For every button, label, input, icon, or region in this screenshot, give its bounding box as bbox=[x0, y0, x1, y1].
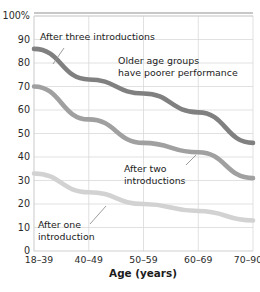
x-tick-label: 60–69 bbox=[184, 254, 212, 265]
y-tick-label: 100% bbox=[3, 10, 30, 21]
annotation-line: have poorer performance bbox=[118, 67, 238, 78]
y-tick-label: 70 bbox=[18, 81, 30, 92]
line-chart-svg: 0102030405060708090100% 18–3940–4950–596… bbox=[0, 0, 260, 292]
annotation-line: introduction bbox=[38, 231, 95, 242]
annotation-line: After one bbox=[38, 219, 81, 230]
annotation-after-two-introductions: After twointroductions bbox=[124, 163, 186, 186]
x-tick-label: 40–49 bbox=[75, 254, 103, 265]
x-tick-label: 50–59 bbox=[129, 254, 157, 265]
y-tick-label: 20 bbox=[18, 198, 30, 209]
y-tick-label: 90 bbox=[18, 34, 30, 45]
annotation-line: After three introductions bbox=[40, 31, 155, 42]
x-axis-title: Age (years) bbox=[109, 267, 177, 279]
y-tick-label: 80 bbox=[18, 57, 30, 68]
annotation-after-one-introduction: After oneintroduction bbox=[38, 219, 95, 242]
x-tick-label: 18–39 bbox=[25, 254, 53, 265]
chart-figure: 0102030405060708090100% 18–3940–4950–596… bbox=[0, 0, 260, 292]
y-tick-label: 40 bbox=[18, 151, 30, 162]
annotation-after-three-introductions: After three introductions bbox=[40, 31, 155, 42]
y-tick-label: 50 bbox=[18, 128, 30, 139]
x-tick-label: 70–90 bbox=[234, 254, 260, 265]
x-axis-tick-labels: 18–3940–4950–5960–6970–90 bbox=[25, 254, 260, 265]
annotation-line: Older age groups bbox=[118, 55, 199, 66]
annotation-line: introductions bbox=[124, 175, 186, 186]
annotation-line: After two bbox=[124, 163, 167, 174]
y-tick-label: 10 bbox=[18, 222, 30, 233]
leader-line-after-one-introduction bbox=[90, 206, 106, 224]
leader-line-after-two-introductions bbox=[186, 155, 196, 165]
y-tick-label: 60 bbox=[18, 104, 30, 115]
annotation-older-age-groups-note: Older age groupshave poorer performance bbox=[118, 55, 238, 78]
y-tick-label: 30 bbox=[18, 175, 30, 186]
y-axis-tick-labels: 0102030405060708090100% bbox=[3, 10, 30, 256]
